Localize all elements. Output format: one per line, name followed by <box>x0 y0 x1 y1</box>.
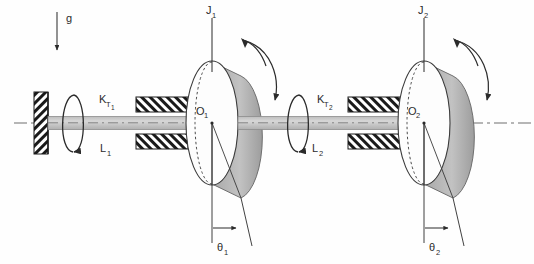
angle-1-label: θ 1 <box>217 241 228 257</box>
svg-text:1: 1 <box>107 149 111 158</box>
disk-2 <box>398 61 474 198</box>
svg-text:2: 2 <box>329 104 333 111</box>
svg-text:J: J <box>206 4 212 16</box>
svg-text:θ: θ <box>217 241 223 253</box>
fixed-wall-support <box>34 92 48 154</box>
svg-text:1: 1 <box>111 104 115 111</box>
gravity-label: g <box>66 12 72 24</box>
svg-text:2: 2 <box>319 149 323 158</box>
svg-text:1: 1 <box>212 11 216 20</box>
angle-2-label: θ 2 <box>429 241 440 257</box>
length-1-label: L 1 <box>100 142 111 158</box>
length-2-label: L 2 <box>312 142 323 158</box>
stiffness-2-label: K T 2 <box>317 93 333 111</box>
inertia-2-label: J 2 <box>418 4 428 20</box>
svg-text:2: 2 <box>436 248 440 257</box>
svg-text:L: L <box>312 142 318 154</box>
svg-text:2: 2 <box>416 111 420 120</box>
figure-canvas: g K T 1 L 1 <box>0 0 534 264</box>
shaft-segment-2 <box>238 117 423 130</box>
inertia-1-label: J 1 <box>206 4 216 20</box>
svg-text:J: J <box>418 4 424 16</box>
svg-text:2: 2 <box>424 11 428 20</box>
svg-text:1: 1 <box>204 111 208 120</box>
svg-text:1: 1 <box>224 248 228 257</box>
stiffness-1-label: K T 1 <box>99 93 115 111</box>
svg-text:L: L <box>100 142 106 154</box>
svg-text:θ: θ <box>429 241 435 253</box>
